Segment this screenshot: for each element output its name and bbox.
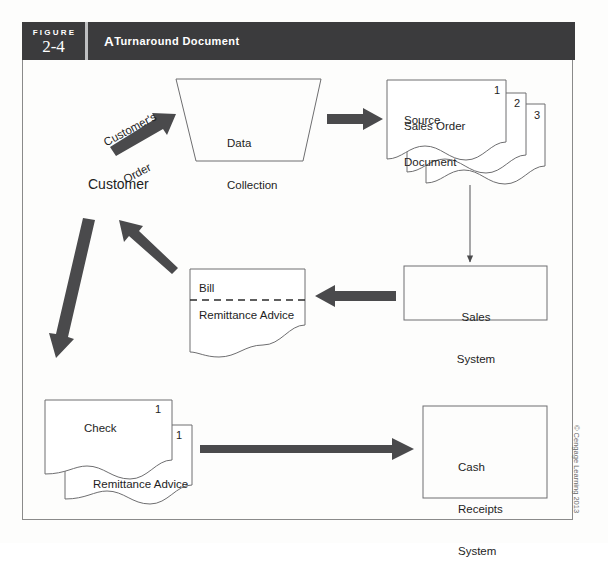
customer-to-check-arrow	[49, 218, 95, 358]
cash-receipts-system-label: Cash Receipts System	[458, 432, 503, 561]
source-copy-3-number: 3	[534, 108, 540, 122]
check-remittance-copy-1	[45, 400, 172, 479]
remittance-advice-label: Remittance Advice	[199, 308, 294, 322]
bill-label: Bill	[199, 281, 214, 295]
source-document-label: Source Document	[404, 85, 456, 197]
sales-to-bill-arrow	[315, 285, 396, 307]
check-copy-2-number: 1	[176, 428, 182, 442]
sales-system-label: Sales System	[452, 282, 500, 394]
data-to-source-arrow	[327, 108, 383, 130]
source-copy-2-number: 2	[514, 96, 520, 110]
customer-label: Customer	[88, 177, 149, 191]
sales-order-label: Sales Order	[404, 119, 465, 133]
check-label: Check	[84, 421, 117, 435]
check-copy-1-number: 1	[155, 402, 161, 416]
check-to-cash-receipts-arrow	[200, 438, 414, 460]
copyright-label: © Cengage Learning 2013	[572, 425, 581, 513]
bill-to-customer-arrow	[119, 220, 178, 274]
data-collection-label: Data Collection	[227, 108, 278, 220]
check-remittance-advice-label: Remittance Advice	[93, 477, 188, 491]
source-copy-1-number: 1	[494, 83, 500, 97]
